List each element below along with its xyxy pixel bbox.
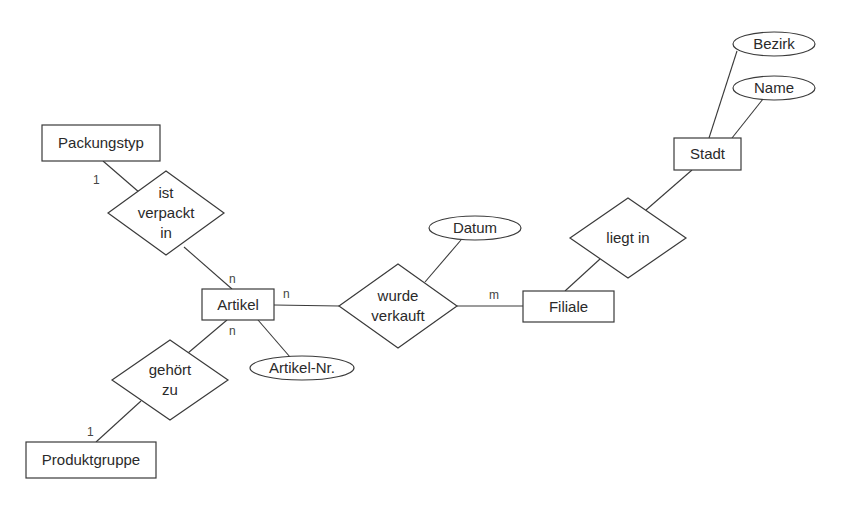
entity-label: Artikel: [217, 296, 259, 313]
relationship-label: ist: [159, 184, 175, 201]
relationship-label: zu: [162, 381, 178, 398]
entity-artikel[interactable]: Artikel: [202, 289, 274, 320]
relationship-label: verkauft: [371, 307, 425, 324]
connector-artikel-artikel-nr: [258, 320, 290, 357]
cardinality-label: m: [489, 288, 499, 302]
relationship-liegt-in[interactable]: liegt in: [570, 198, 686, 278]
connector-stadt-name: [732, 99, 763, 138]
cardinality-label: 1: [87, 425, 94, 439]
connector-stadt-bezirk: [709, 51, 737, 138]
connector-packungstyp-ist-verpackt-in: [103, 161, 140, 193]
connector-filiale-liegt-in: [565, 259, 600, 291]
cardinality-label: n: [229, 272, 236, 286]
entity-label: Filiale: [549, 298, 588, 315]
connector-artikel-gehoert-zu: [188, 320, 227, 353]
cardinality-label: 1: [93, 173, 100, 187]
attributes: DatumArtikel-Nr.BezirkName: [250, 32, 815, 380]
connector-gehoert-zu-produktgruppe: [96, 401, 141, 442]
relationship-label: liegt in: [606, 229, 649, 246]
er-diagram: PackungstypArtikelProduktgruppeFilialeSt…: [0, 0, 843, 512]
relationship-gehoert-zu[interactable]: gehörtzu: [112, 340, 228, 420]
relationship-ist-verpackt-in[interactable]: istverpacktin: [108, 171, 224, 255]
cardinality-label: n: [283, 287, 290, 301]
relationship-wurde-verkauft[interactable]: wurdeverkauft: [339, 264, 457, 348]
relationship-label: in: [160, 224, 172, 241]
attribute-name[interactable]: Name: [733, 76, 815, 100]
attribute-label: Name: [754, 79, 794, 96]
attribute-artikel-nr[interactable]: Artikel-Nr.: [250, 356, 354, 380]
entity-label: Produktgruppe: [42, 451, 140, 468]
connector-wurde-verkauft-datum: [425, 240, 461, 282]
relationship-label: wurde: [377, 287, 419, 304]
connector-liegt-in-stadt: [646, 170, 692, 210]
entity-label: Packungstyp: [58, 134, 144, 151]
relationship-diamond: [112, 340, 228, 420]
entity-label: Stadt: [690, 145, 726, 162]
attribute-label: Artikel-Nr.: [269, 359, 335, 376]
relationship-diamond: [339, 264, 457, 348]
relationship-label: gehört: [149, 361, 192, 378]
connector-artikel-wurde-verkauft: [274, 305, 339, 306]
connector-ist-verpackt-in-artikel: [184, 247, 232, 289]
entity-stadt[interactable]: Stadt: [674, 138, 741, 170]
entity-filiale[interactable]: Filiale: [523, 291, 614, 322]
entity-packungstyp[interactable]: Packungstyp: [42, 125, 160, 161]
attribute-bezirk[interactable]: Bezirk: [733, 32, 815, 56]
attribute-datum[interactable]: Datum: [429, 216, 521, 240]
entity-produktgruppe[interactable]: Produktgruppe: [26, 442, 156, 478]
er-diagram-canvas: PackungstypArtikelProduktgruppeFilialeSt…: [0, 0, 843, 512]
relationship-label: verpackt: [138, 204, 196, 221]
attribute-label: Bezirk: [753, 35, 795, 52]
cardinality-label: n: [229, 324, 236, 338]
attribute-label: Datum: [453, 219, 497, 236]
